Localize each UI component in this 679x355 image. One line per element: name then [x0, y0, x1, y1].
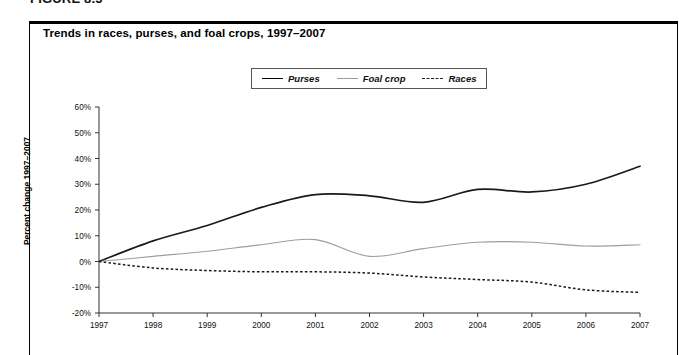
x-tick-label: 1998 [144, 321, 163, 330]
y-tick-label: 10% [75, 232, 91, 241]
series-line-races [99, 262, 640, 293]
x-tick-label: 1999 [198, 321, 217, 330]
x-tick-label: 1997 [90, 321, 109, 330]
x-tick-label: 2006 [577, 321, 596, 330]
x-tick-label: 2003 [414, 321, 433, 330]
chart-plot-area: 60%50%40%30%20%10%0%-10%-20% 19971998199… [0, 0, 679, 355]
x-tick-label: 2007 [631, 321, 650, 330]
y-tick-label: -20% [72, 309, 91, 318]
x-tick-label: 2000 [252, 321, 271, 330]
y-axis: 60%50%40%30%20%10%0%-10%-20% [72, 103, 99, 318]
x-tick-label: 2001 [306, 321, 325, 330]
x-tick-label: 2004 [469, 321, 488, 330]
y-tick-label: 40% [75, 155, 91, 164]
x-tick-label: 2002 [360, 321, 379, 330]
x-axis: 1997199819992000200120022003200420052006… [90, 313, 650, 330]
y-tick-label: 0% [79, 258, 91, 267]
y-tick-label: 20% [75, 206, 91, 215]
series-line-purses [99, 166, 640, 261]
series-line-foal-crop [99, 239, 640, 261]
y-tick-label: 30% [75, 180, 91, 189]
y-tick-label: 50% [75, 129, 91, 138]
x-tick-label: 2005 [523, 321, 542, 330]
y-tick-label: -10% [72, 283, 91, 292]
y-tick-label: 60% [75, 103, 91, 112]
